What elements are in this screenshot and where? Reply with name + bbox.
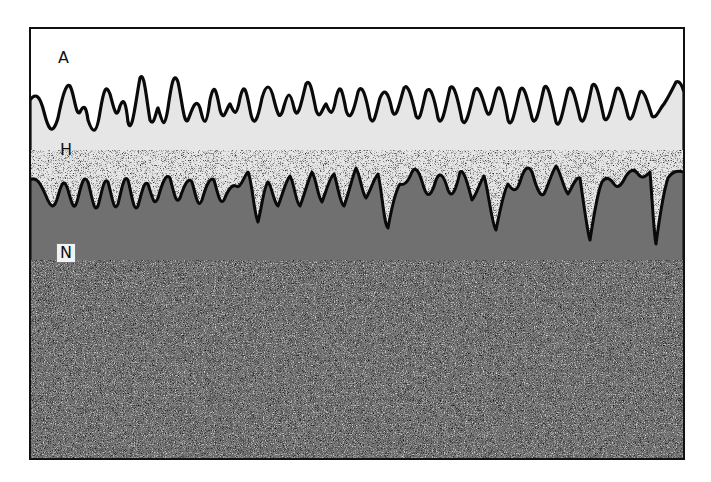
figure-canvas <box>0 0 711 482</box>
stratified-layers-figure: A H N <box>0 0 711 482</box>
layer-label-a: A <box>58 50 69 66</box>
layer-label-h: H <box>60 142 72 158</box>
layer-label-n: N <box>56 243 76 263</box>
